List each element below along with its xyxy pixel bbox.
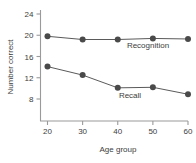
y-axis-label: Number correct (6, 39, 15, 95)
data-point (80, 37, 86, 43)
x-tick-label: 30 (78, 127, 87, 136)
y-tick-label: 16 (25, 53, 34, 62)
series-annotation-recall: Recall (119, 91, 141, 100)
y-tick-label: 8 (29, 95, 34, 104)
data-point (150, 84, 156, 90)
series-annotations: RecognitionRecall (119, 41, 169, 100)
data-point (185, 91, 191, 97)
data-point (185, 36, 191, 42)
y-tick-label: 20 (25, 31, 34, 40)
y-tick-label: 24 (25, 10, 34, 19)
y-axis-ticks: 812162024 (25, 10, 41, 104)
line-chart: 812162024 2030405060 RecognitionRecall N… (0, 0, 196, 163)
chart-axes (41, 10, 189, 121)
series-recall (45, 64, 192, 98)
data-point (115, 85, 121, 91)
chart-canvas: 812162024 2030405060 RecognitionRecall N… (0, 0, 196, 163)
x-axis-ticks: 2030405060 (43, 121, 193, 136)
y-tick-label: 12 (25, 74, 34, 83)
x-tick-label: 40 (113, 127, 122, 136)
x-tick-label: 60 (184, 127, 193, 136)
x-tick-label: 20 (43, 127, 52, 136)
series-annotation-recognition: Recognition (127, 41, 169, 50)
data-point (80, 72, 86, 78)
data-point (45, 64, 51, 70)
x-axis-label: Age group (100, 145, 137, 154)
data-point (45, 33, 51, 39)
x-tick-label: 50 (148, 127, 157, 136)
data-point (115, 37, 121, 43)
